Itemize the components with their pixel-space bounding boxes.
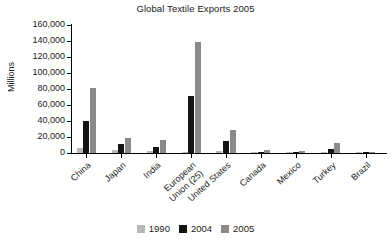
legend-label: 2004 <box>191 223 212 234</box>
bar <box>118 144 124 153</box>
bar <box>216 151 222 153</box>
bar <box>328 149 334 153</box>
chart-container: Global Textile Exports 2005 Millions 160… <box>0 0 391 239</box>
y-tick-mark <box>67 153 72 154</box>
bar <box>299 151 305 153</box>
bar <box>293 152 299 153</box>
bar <box>334 143 340 153</box>
bar <box>369 152 375 153</box>
y-tick-label: 140,000 <box>32 36 65 45</box>
legend-swatch-icon <box>179 225 187 233</box>
legend-item[interactable]: 2005 <box>221 223 254 234</box>
y-tick-label: 20,000 <box>37 132 65 141</box>
legend-swatch-icon <box>221 225 229 233</box>
plot-area <box>72 25 386 153</box>
bar <box>230 130 236 153</box>
legend-swatch-icon <box>137 225 145 233</box>
x-tick-mark <box>121 154 122 158</box>
bar <box>153 147 159 153</box>
legend-item[interactable]: 2004 <box>179 223 212 234</box>
legend-label: 1990 <box>149 223 170 234</box>
x-tick-mark <box>331 154 332 158</box>
bar <box>125 138 131 153</box>
bar <box>77 148 83 153</box>
bar <box>223 141 229 153</box>
bar <box>182 152 188 153</box>
bar <box>188 96 194 153</box>
y-tick-label: 0 <box>60 148 65 157</box>
x-tick-mark <box>261 154 262 158</box>
bar <box>195 42 201 153</box>
bar <box>112 150 118 153</box>
x-tick-mark <box>156 154 157 158</box>
x-tick-mark <box>191 154 192 158</box>
x-tick-mark <box>296 154 297 158</box>
bar <box>160 140 166 153</box>
y-axis-title: Millions <box>6 47 16 107</box>
y-tick-label: 60,000 <box>37 100 65 109</box>
chart-title: Global Textile Exports 2005 <box>0 3 391 14</box>
bar <box>321 152 327 153</box>
bar <box>147 151 153 153</box>
bar <box>363 152 369 153</box>
bar <box>264 150 270 153</box>
x-tick-mark <box>366 154 367 158</box>
y-tick-label: 80,000 <box>37 84 65 93</box>
x-axis-line <box>71 153 387 154</box>
y-tick-label: 40,000 <box>37 116 65 125</box>
bar <box>251 152 257 153</box>
legend-label: 2005 <box>233 223 254 234</box>
chart-legend: 199020042005 <box>0 223 391 234</box>
y-tick-label: 120,000 <box>32 52 65 61</box>
y-tick-label: 100,000 <box>32 68 65 77</box>
bar <box>90 88 96 153</box>
bar <box>356 152 362 153</box>
bar <box>83 121 89 153</box>
legend-item[interactable]: 1990 <box>137 223 170 234</box>
x-tick-mark <box>86 154 87 158</box>
bar <box>286 152 292 153</box>
y-tick-label: 160,000 <box>32 20 65 29</box>
x-tick-mark <box>226 154 227 158</box>
bar <box>258 152 264 153</box>
